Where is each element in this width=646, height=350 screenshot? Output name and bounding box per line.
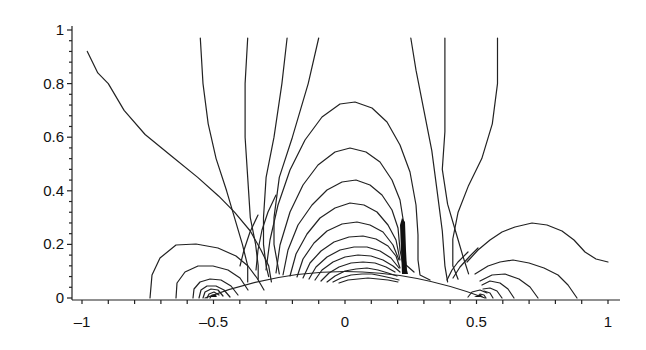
x-tick-label: –0.5	[199, 313, 228, 330]
contour-line	[411, 38, 448, 282]
contour-lines	[87, 38, 497, 282]
contour-line	[200, 38, 247, 282]
x-tick-label: 0.5	[466, 313, 487, 330]
plot-area	[87, 38, 608, 298]
y-axis: 00.20.40.60.81	[43, 21, 72, 306]
y-tick-label: 1	[56, 21, 64, 38]
y-tick-label: 0.6	[43, 128, 64, 145]
y-ticks: 00.20.40.60.81	[43, 21, 72, 306]
x-tick-label: 0	[341, 313, 349, 330]
right-point-source-contours	[467, 223, 608, 298]
x-tick-label: 1	[604, 313, 612, 330]
y-tick-label: 0	[56, 289, 64, 306]
x-tick-label: –1	[74, 313, 91, 330]
contour-line	[264, 38, 288, 277]
x-axis: –1–0.500.51	[72, 300, 620, 330]
left-point-source-contours	[150, 244, 264, 298]
y-tick-label: 0.2	[43, 235, 64, 252]
lower-boundary-arc	[205, 272, 485, 299]
contour-line	[87, 51, 271, 282]
contour-line	[442, 38, 468, 274]
y-tick-label: 0.4	[43, 182, 64, 199]
contour-line	[245, 38, 258, 279]
contour-line	[274, 38, 319, 274]
x-ticks: –1–0.500.51	[74, 300, 613, 330]
y-tick-label: 0.8	[43, 75, 64, 92]
contour-plot: 00.20.40.60.81 –1–0.500.51	[0, 0, 646, 350]
